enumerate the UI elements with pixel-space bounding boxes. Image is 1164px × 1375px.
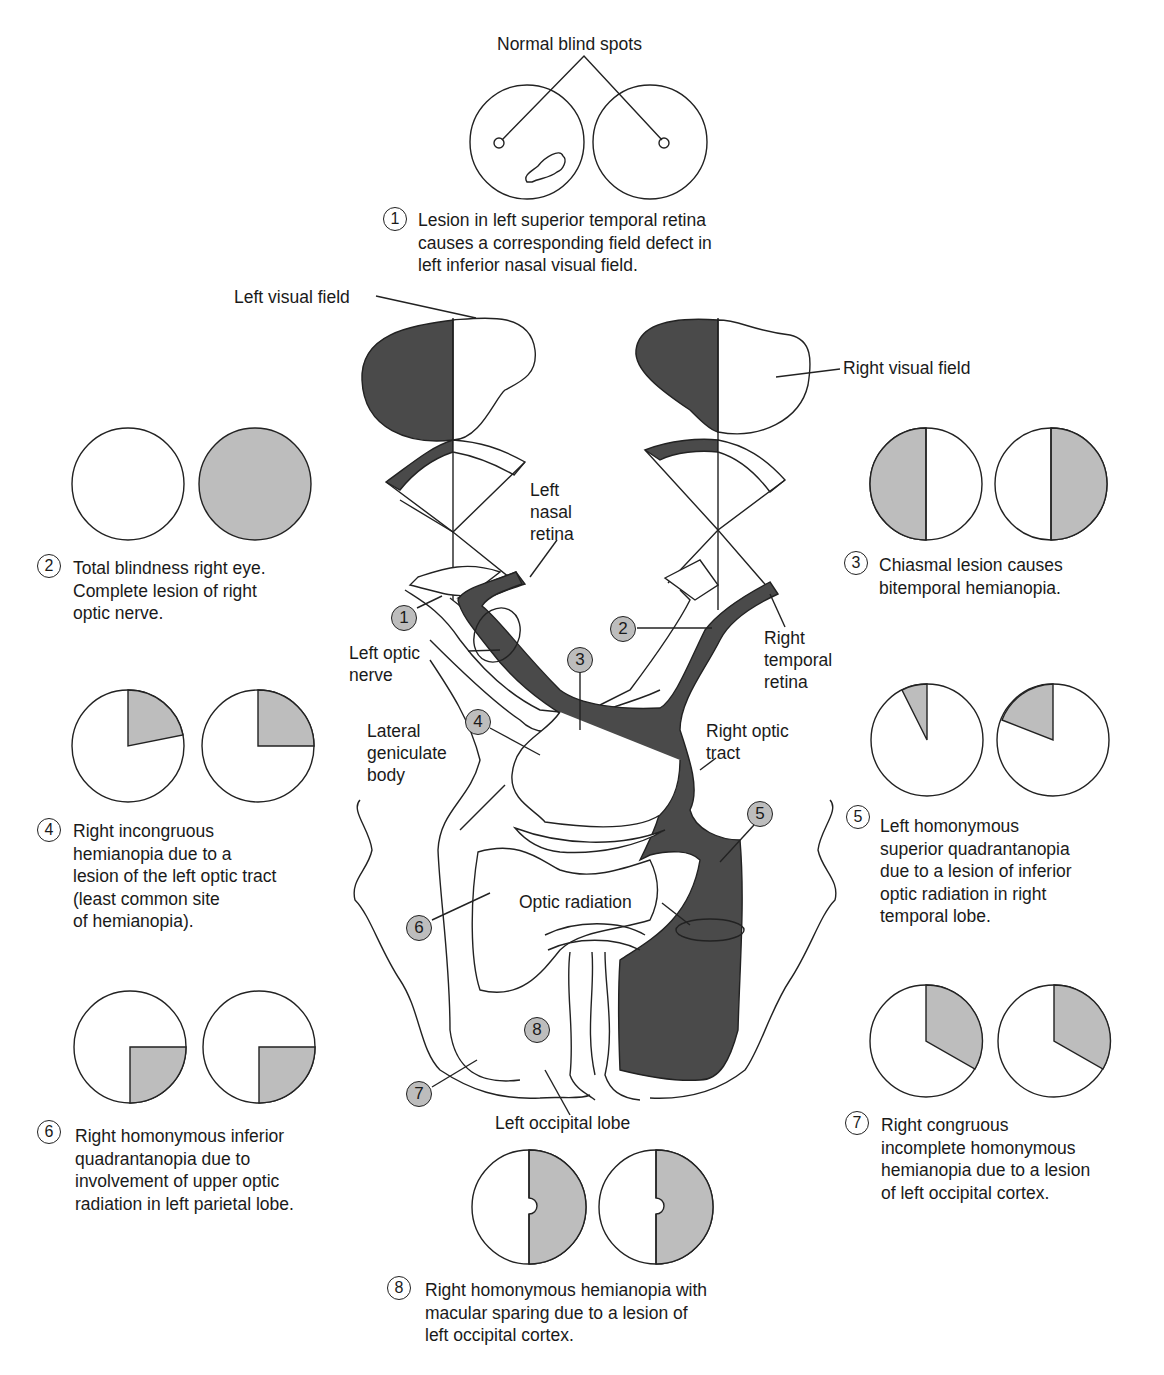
lesion-3-fields — [870, 428, 1107, 540]
optic-radiation-label: Optic radiation — [519, 891, 632, 913]
right-visual-field-shape — [636, 318, 840, 610]
lesion-2-fields — [72, 428, 311, 540]
lesion-marker-4: 4 — [465, 709, 491, 735]
caption-lesion-1: Lesion in left superior temporal retina … — [418, 209, 712, 277]
lesion-marker-3: 3 — [567, 647, 593, 673]
lesion-marker-8: 8 — [524, 1017, 550, 1043]
left-optic-nerve-label: Left optic nerve — [349, 642, 420, 686]
lesion-6-fields — [74, 991, 315, 1103]
caption-number-8: 8 — [387, 1276, 411, 1300]
right-temporal-retina-label: Right temporal retina — [764, 627, 832, 693]
right-eye-retina — [645, 439, 785, 600]
lesion-marker-7: 7 — [406, 1081, 432, 1107]
blind-spots-title: Normal blind spots — [497, 33, 642, 55]
caption-number-3: 3 — [844, 551, 868, 575]
caption-lesion-2: Total blindness right eye. Complete lesi… — [73, 557, 266, 625]
blind-spot-fields — [470, 56, 707, 199]
caption-lesion-3: Chiasmal lesion causes bitemporal hemian… — [879, 554, 1063, 599]
right-optic-tract-label: Right optic tract — [706, 720, 789, 764]
caption-number-1: 1 — [383, 207, 407, 231]
lesion-4-fields — [72, 690, 314, 802]
caption-lesion-7: Right congruous incomplete homonymous he… — [881, 1114, 1090, 1204]
caption-lesion-6: Right homonymous inferior quadrantanopia… — [75, 1125, 294, 1215]
lesion-marker-2: 2 — [610, 616, 636, 642]
left-visual-field-label: Left visual field — [234, 286, 350, 308]
caption-lesion-8: Right homonymous hemianopia with macular… — [425, 1279, 707, 1347]
caption-lesion-4: Right incongruous hemianopia due to a le… — [73, 820, 276, 933]
lesion-marker-5: 5 — [747, 801, 773, 827]
lesion-8-fields — [472, 1150, 713, 1264]
caption-number-5: 5 — [846, 805, 870, 829]
lesion-7-fields — [870, 985, 1111, 1097]
right-visual-field-label: Right visual field — [843, 357, 970, 379]
lateral-geniculate-body-label: Lateral geniculate body — [367, 720, 447, 786]
caption-number-7: 7 — [845, 1111, 869, 1135]
caption-number-6: 6 — [37, 1120, 61, 1144]
caption-number-4: 4 — [37, 818, 61, 842]
caption-lesion-5: Left homonymous superior quadrantanopia … — [880, 815, 1072, 928]
lesion-5-fields — [871, 684, 1109, 796]
left-nasal-retina-label: Left nasal retina — [530, 479, 574, 545]
left-occipital-lobe-label: Left occipital lobe — [495, 1112, 630, 1134]
lesion-marker-1: 1 — [391, 605, 417, 631]
lesion-marker-6: 6 — [406, 915, 432, 941]
caption-number-2: 2 — [37, 554, 61, 578]
